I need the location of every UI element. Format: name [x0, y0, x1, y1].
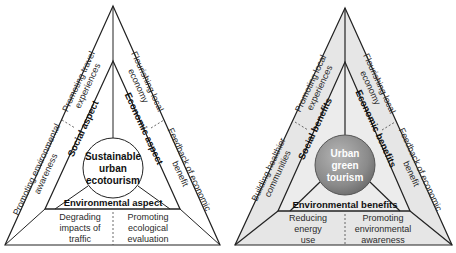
center-line-2: green	[331, 160, 358, 171]
outer-bottom-left-3: traffic	[69, 234, 91, 244]
outer-bottom-left-2: energy	[294, 224, 322, 234]
diagram-canvas: Sustainable urban ecotourism Social aspe…	[0, 0, 456, 253]
center-line-1: Sustainable	[85, 151, 142, 162]
outer-bottom-right-3: evaluation	[127, 234, 168, 244]
outer-bottom-left-2: impacts of	[59, 223, 101, 233]
outer-bottom-right-1: Promoting	[362, 213, 403, 223]
outer-bottom-right-3: awareness	[361, 235, 405, 245]
center-line-3: tourism	[327, 172, 364, 183]
left-diagram: Sustainable urban ecotourism Social aspe…	[5, 6, 220, 245]
center-line-2: urban	[99, 163, 127, 174]
outer-bottom-left-1: Degrading	[59, 212, 101, 222]
center-line-3: ecotourism	[86, 175, 140, 186]
outer-bottom-left-1: Reducing	[289, 213, 327, 223]
center-line-1: Urban	[331, 148, 360, 159]
outer-bottom-right-1: Promoting	[127, 212, 168, 222]
outer-bottom-left-3: use	[301, 235, 316, 245]
outer-bottom-right-2: ecological	[128, 223, 168, 233]
aspect-environmental: Environmental aspect	[64, 197, 164, 208]
aspect-environmental: Environmental benefits	[292, 199, 397, 210]
outer-bottom-right-2: environmental	[355, 224, 412, 234]
right-diagram: Urban green tourism Social benefits Econ…	[235, 8, 452, 245]
